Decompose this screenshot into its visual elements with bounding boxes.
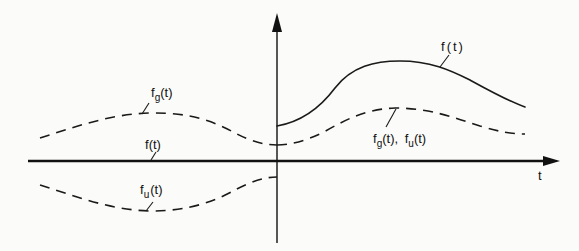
f-right-base: f: [441, 39, 445, 54]
fu-left-leader: [146, 202, 153, 211]
fu-left-label: fu(t): [140, 182, 162, 200]
f-right-leader: [440, 55, 449, 67]
fu-left-tail: (t): [150, 182, 162, 197]
f-right-label: f(t): [441, 39, 465, 54]
f-left-tail: (t): [149, 137, 161, 152]
fg-left-tail: (t): [160, 85, 172, 100]
fg-fu-right-label: fg(t), fu(t): [373, 131, 426, 149]
fg-fu-right-leader: [386, 109, 396, 127]
t-axis-arrow-icon: [543, 156, 560, 166]
f-left-leader: [151, 152, 156, 160]
f-curve-right: [277, 61, 525, 126]
t-axis-label: t: [538, 168, 542, 183]
f-right-tail: (t): [447, 39, 465, 54]
fg-left-label: fg(t): [151, 85, 172, 103]
f-left-label: f(t): [145, 137, 161, 152]
fg-right-mid: (t),: [382, 131, 402, 146]
even-odd-decomposition-diagram: f(t) fg(t) f(t) fu(t) fg(t), fu(t) t: [0, 0, 579, 251]
fu-left-sub: u: [144, 189, 150, 200]
fu-right-tail: (t): [414, 131, 426, 146]
vertical-axis-arrow-icon: [272, 13, 282, 32]
